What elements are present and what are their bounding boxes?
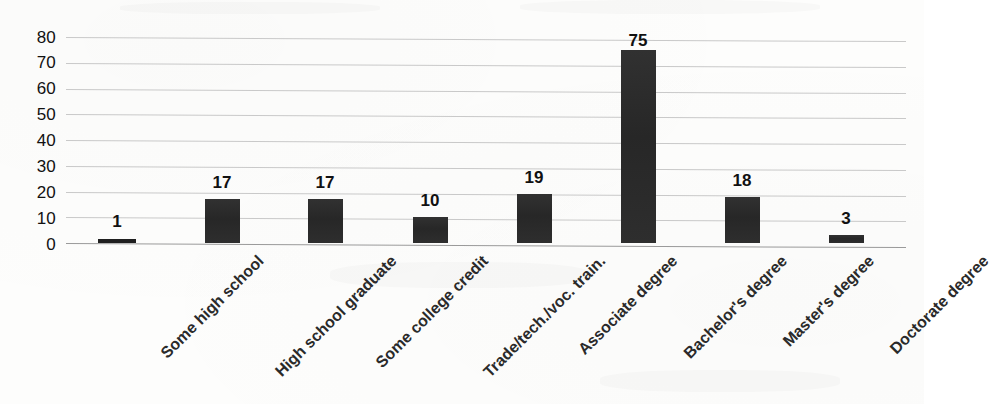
x-tick-label-some-high-school: Some high school: [157, 252, 267, 362]
value-label-some-high-school: 1: [87, 213, 147, 230]
value-label-trade-tech-voc-train: 10: [400, 192, 460, 209]
bar-trade-tech-voc-train: [413, 217, 448, 243]
value-label-associate-degree: 19: [504, 169, 564, 186]
bar-some-college-credit: [308, 199, 343, 243]
value-label-high-school-graduate: 17: [192, 174, 252, 191]
x-tick-label-bachelors-degree: Bachelor's degree: [680, 252, 790, 362]
bar-doctorate-degree: [829, 235, 864, 243]
plot-area: 1 17 17 10 19 75 18 3: [66, 37, 906, 243]
bar-high-school-graduate: [205, 199, 240, 243]
bar-bachelors-degree: [621, 50, 656, 243]
y-tick-label-20: 20: [4, 184, 56, 201]
y-tick-label-70: 70: [4, 54, 56, 71]
bar-masters-degree: [725, 197, 760, 243]
value-label-bachelors-degree: 75: [608, 32, 668, 49]
gridline-40: [66, 140, 906, 145]
gridline-80: [66, 37, 906, 42]
value-label-doctorate-degree: 3: [816, 210, 876, 227]
gridline-70: [66, 63, 906, 68]
x-tick-label-masters-degree: Master's degree: [779, 252, 877, 350]
bar-some-high-school: [98, 239, 136, 243]
gridline-60: [66, 89, 906, 94]
y-tick-label-0: 0: [4, 236, 56, 253]
gridline-30: [66, 166, 906, 171]
scan-artifact: [120, 2, 380, 14]
x-axis-baseline: [66, 243, 906, 248]
gridline-20: [66, 192, 906, 197]
y-tick-label-50: 50: [4, 106, 56, 123]
gridline-50: [66, 114, 906, 119]
y-tick-label-60: 60: [4, 80, 56, 97]
value-label-some-college-credit: 17: [295, 174, 355, 191]
y-tick-label-40: 40: [4, 132, 56, 149]
value-label-masters-degree: 18: [712, 172, 772, 189]
x-tick-label-doctorate-degree: Doctorate degree: [887, 252, 992, 358]
y-tick-label-80: 80: [4, 29, 56, 46]
gridline-10: [66, 217, 906, 222]
x-tick-label-trade-tech-voc-train: Trade/tech./voc. train.: [480, 252, 609, 381]
y-tick-label-10: 10: [4, 210, 56, 227]
scan-artifact: [600, 370, 840, 392]
bar-associate-degree: [517, 194, 552, 243]
y-tick-label-30: 30: [4, 158, 56, 175]
scan-artifact: [520, 0, 820, 14]
